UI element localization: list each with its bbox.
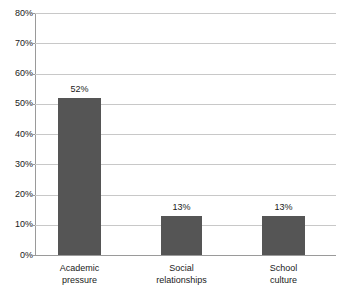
bar-chart: 0%10%20%30%40%50%60%70%80% 52%13%13% Aca… (0, 0, 346, 294)
category-label-line: relationships (126, 274, 237, 286)
plot-area (35, 13, 336, 255)
category-label: Socialrelationships (126, 262, 237, 286)
bar (262, 216, 305, 255)
bar-value-label: 13% (141, 202, 222, 212)
bar (161, 216, 202, 255)
category-label-line: culture (227, 274, 340, 286)
gridline (35, 255, 336, 256)
gridline (35, 74, 336, 75)
category-label: Academicpressure (23, 262, 136, 286)
gridline (35, 43, 336, 44)
bar (58, 98, 101, 255)
category-label-line: School (227, 262, 340, 274)
category-label-line: Social (126, 262, 237, 274)
bar-value-label: 13% (242, 202, 325, 212)
category-label-line: pressure (23, 274, 136, 286)
category-label: Schoolculture (227, 262, 340, 286)
bar-value-label: 52% (38, 84, 121, 94)
gridline (35, 13, 336, 14)
category-label-line: Academic (23, 262, 136, 274)
